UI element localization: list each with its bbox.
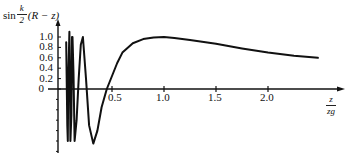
- x-tick-label: 0.5: [108, 92, 122, 103]
- x-axis-label: z zg: [326, 95, 336, 116]
- y-tick-label: 0: [20, 83, 44, 94]
- x-axis-arrow-icon: [337, 87, 345, 92]
- x-tick-label: 1.5: [208, 92, 222, 103]
- y-label-frac-num: k: [20, 4, 24, 13]
- x-label-den: zg: [327, 107, 335, 116]
- y-label-fraction: k 2: [17, 4, 27, 25]
- y-axis-label: sin k 2 (R − z): [3, 4, 59, 25]
- y-label-frac-den: 2: [20, 16, 25, 25]
- y-label-prefix: sin: [3, 9, 16, 21]
- data-line: [66, 32, 318, 144]
- x-tick-label: 1.0: [156, 92, 170, 103]
- y-label-suffix: (R − z): [28, 9, 59, 21]
- x-tick-label: 2.0: [260, 92, 274, 103]
- x-label-num: z: [329, 95, 333, 104]
